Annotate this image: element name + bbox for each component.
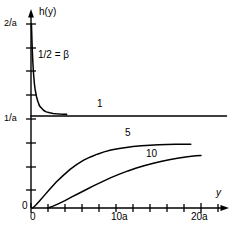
series-path <box>31 24 66 114</box>
curve-label-10: 10 <box>146 149 157 159</box>
x-tick-label-10a: 10a <box>111 212 128 222</box>
curve-label-5: 5 <box>125 128 131 138</box>
x-tick-label-20a: 20a <box>191 212 208 222</box>
y-axis-title: h(y) <box>39 7 56 17</box>
series-path <box>48 155 201 208</box>
series-path <box>33 144 191 208</box>
plot-area <box>0 0 234 231</box>
beta-annotation: 1/2 = β <box>38 50 69 60</box>
x-axis-title: y <box>216 188 221 198</box>
chart-figure: h(y) 2/a 1/a 0 0 10a 20a y 1/2 = β 1 5 1… <box>0 0 234 231</box>
y-tick-1a-denominator: a <box>12 113 17 123</box>
y-tick-2a-denominator: a <box>12 18 17 28</box>
x-tick-label-zero: 0 <box>30 212 36 222</box>
y-axis <box>28 9 34 208</box>
y-tick-label-zero: 0 <box>22 201 28 211</box>
y-tick-label-2a: 2/a <box>4 18 17 28</box>
curve-label-1: 1 <box>97 99 103 109</box>
y-tick-label-1a: 1/a <box>4 113 17 123</box>
